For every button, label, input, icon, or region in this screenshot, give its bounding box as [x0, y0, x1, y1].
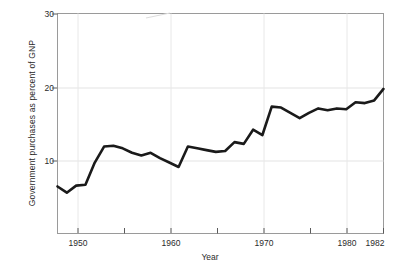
- x-axis-ticks: [78, 228, 384, 234]
- chart-figure: Government purchases as percent of GNP 3…: [0, 0, 396, 277]
- gridlines-vertical: [78, 14, 347, 234]
- plot-frame: [58, 14, 384, 234]
- plot-area: [0, 0, 396, 277]
- gridlines-horizontal: [58, 88, 384, 161]
- data-series-line: [58, 89, 384, 193]
- y-axis-ticks: [52, 14, 58, 161]
